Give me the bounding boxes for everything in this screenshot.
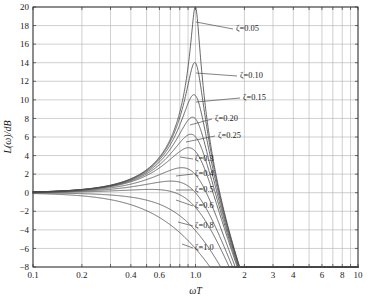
x-tick-label: 6 (320, 270, 325, 280)
x-axis-title: ωT (189, 285, 203, 296)
curve-label-0p15: ζ=0.15 (243, 93, 266, 102)
curve-label-0p05: ζ=0.05 (236, 24, 259, 33)
y-tick-label: −8 (19, 262, 29, 272)
y-tick-label: 2 (25, 169, 30, 179)
curve-label-0p6: ζ=0.6 (195, 201, 214, 210)
y-tick-label: 16 (20, 39, 30, 49)
x-tick-label: 0.2 (76, 270, 87, 280)
chart-background (0, 0, 372, 301)
y-tick-label: 8 (25, 114, 30, 124)
y-tick-label: 20 (20, 2, 30, 12)
x-tick-label: 0.4 (125, 270, 137, 280)
curve-label-1: ζ=1.0 (195, 243, 214, 252)
y-tick-label: 10 (20, 95, 30, 105)
y-tick-label: −6 (19, 244, 29, 254)
y-tick-label: 12 (20, 76, 29, 86)
x-tick-label: 4 (291, 270, 296, 280)
curve-label-0p3: ζ=0.3 (195, 154, 214, 163)
curve-label-0p1: ζ=0.10 (240, 71, 263, 80)
x-tick-label: 10 (354, 270, 364, 280)
curve-label-0p25: ζ=0.25 (218, 131, 241, 140)
curve-label-0p8: ζ=0.8 (195, 221, 214, 230)
y-tick-label: −4 (19, 225, 29, 235)
y-tick-label: 18 (20, 21, 30, 31)
x-tick-label: 8 (340, 270, 345, 280)
x-tick-label: 1.0 (190, 270, 202, 280)
y-tick-label: 6 (25, 132, 30, 142)
bode-magnitude-chart: 0.10.20.40.61.02346810 20181614121086420… (0, 0, 372, 301)
y-axis-title: L(ω)/dB (2, 120, 14, 154)
y-tick-label: 4 (25, 151, 30, 161)
x-tick-label: 2 (242, 270, 247, 280)
chart-canvas: 0.10.20.40.61.02346810 20181614121086420… (0, 0, 372, 301)
curve-label-0p2: ζ=0.20 (215, 114, 238, 123)
y-tick-label: 14 (20, 58, 30, 68)
y-tick-label: 0 (25, 188, 30, 198)
curve-label-0p5: ζ=0.5 (195, 185, 214, 194)
x-tick-label: 0.6 (154, 270, 166, 280)
curve-label-0p4: ζ=0.4 (195, 169, 214, 178)
y-tick-label: −2 (19, 206, 29, 216)
x-tick-label: 0.1 (27, 270, 38, 280)
x-tick-label: 3 (271, 270, 276, 280)
